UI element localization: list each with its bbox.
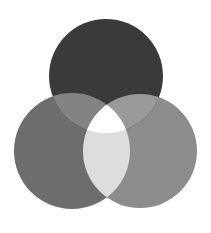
venn-svg bbox=[0, 0, 211, 233]
venn-diagram bbox=[0, 0, 211, 233]
